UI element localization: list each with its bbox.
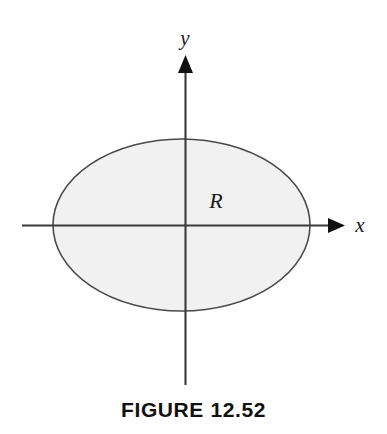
y-axis-arrowhead bbox=[178, 55, 193, 73]
x-axis-arrowhead bbox=[328, 218, 345, 233]
figure-graphic: y x R bbox=[0, 0, 387, 434]
region-label: R bbox=[208, 188, 223, 213]
x-axis-label: x bbox=[354, 213, 365, 237]
figure-container: y x R FIGURE 12.52 bbox=[0, 0, 387, 434]
figure-caption: FIGURE 12.52 bbox=[0, 398, 387, 422]
y-axis-label: y bbox=[178, 26, 190, 50]
